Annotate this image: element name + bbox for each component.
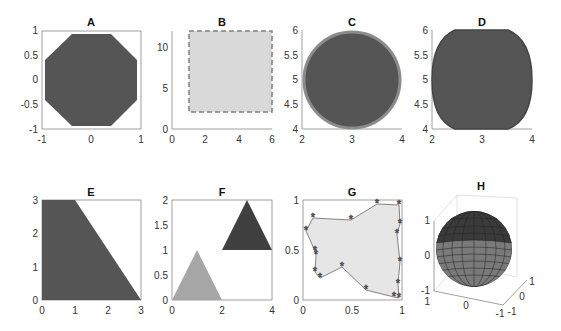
svg-text:*: * [392,291,396,302]
svg-text:1: 1 [32,262,38,273]
svg-text:0: 0 [293,295,299,306]
svg-text:1: 1 [32,25,38,36]
svg-text:*: * [313,266,317,277]
panel-g: G * * * * * * * * * * * * * * * * * 0 0.… [285,186,405,316]
svg-text:*: * [397,292,401,303]
svg-text:0: 0 [162,124,168,135]
svg-text:*: * [395,228,399,239]
circle [304,32,400,128]
svg-text:*: * [398,256,402,267]
svg-text:4: 4 [269,305,275,316]
svg-text:2: 2 [162,195,168,206]
svg-text:6: 6 [422,25,428,36]
panel-c: C 6 5.5 5 4.5 4 2 3 4 [284,16,405,145]
svg-text:3: 3 [138,305,144,316]
svg-text:5.5: 5.5 [284,50,298,61]
svg-text:1: 1 [293,195,299,206]
svg-text:0: 0 [463,300,469,311]
rounded-rectangle [432,30,532,129]
panel-f: F 0 0.5 1 1.5 2 0 2 4 [154,186,275,316]
svg-text:2: 2 [429,134,435,145]
svg-text:5: 5 [422,74,428,85]
svg-text:4: 4 [529,134,535,145]
svg-text:1: 1 [162,245,168,256]
svg-text:*: * [396,278,400,289]
svg-text:1: 1 [529,276,535,287]
svg-text:2: 2 [32,228,38,239]
panel-title: D [478,16,486,28]
svg-text:6: 6 [292,25,298,36]
svg-text:0: 0 [519,291,525,302]
svg-text:1.5: 1.5 [154,220,168,231]
figure: A 1 0.5 0 -0.5 -1 -1 0 1 B 0 5 10 0 2 4 … [0,0,561,331]
svg-text:4.5: 4.5 [284,99,298,110]
rectangle [189,31,272,112]
sphere [436,211,512,287]
svg-text:6: 6 [269,134,275,145]
svg-text:-1: -1 [421,285,430,296]
svg-text:-0.5: -0.5 [21,99,39,110]
svg-text:0.5: 0.5 [154,270,168,281]
svg-text:*: * [349,214,353,225]
svg-text:-1: -1 [38,134,47,145]
panel-b: B 0 5 10 0 2 4 6 [157,16,275,145]
panel-title: C [348,16,356,28]
svg-text:0.5: 0.5 [24,50,38,61]
svg-text:4.5: 4.5 [414,99,428,110]
svg-text:*: * [375,198,379,209]
svg-text:0: 0 [39,305,45,316]
svg-text:0: 0 [32,295,38,306]
panel-d: D 6 5.5 5 4.5 4 2 3 4 [414,16,535,145]
panel-a: A 1 0.5 0 -0.5 -1 -1 0 1 [21,16,144,145]
svg-text:1: 1 [138,134,144,145]
svg-text:0: 0 [169,134,175,145]
panel-title: A [87,16,95,28]
svg-text:-1: -1 [508,306,517,317]
svg-text:4: 4 [422,124,428,135]
svg-text:3: 3 [32,195,38,206]
panel-title: B [218,16,226,28]
svg-text:0: 0 [162,295,168,306]
octagon [45,34,137,126]
svg-text:2: 2 [219,305,225,316]
panel-title: F [219,186,226,198]
svg-text:*: * [318,272,322,283]
svg-text:-1: -1 [496,308,505,319]
svg-text:0: 0 [32,74,38,85]
svg-text:1: 1 [424,215,430,226]
svg-text:10: 10 [157,42,169,53]
panel-title: E [87,186,94,198]
svg-text:5: 5 [292,74,298,85]
panel-title: G [348,186,357,198]
svg-text:2: 2 [105,305,111,316]
svg-text:4: 4 [292,124,298,135]
panel-e: E 0 1 2 3 0 1 2 3 [32,186,144,316]
svg-text:1: 1 [72,305,78,316]
svg-text:0: 0 [88,134,94,145]
svg-text:0.5: 0.5 [285,245,299,256]
svg-text:*: * [311,212,315,223]
svg-text:*: * [313,245,317,256]
svg-text:5.5: 5.5 [414,50,428,61]
svg-text:1: 1 [424,296,430,307]
svg-text:*: * [397,199,401,210]
svg-text:5: 5 [162,83,168,94]
svg-text:4: 4 [236,134,242,145]
svg-text:0: 0 [169,305,175,316]
svg-text:2: 2 [202,134,208,145]
svg-text:*: * [340,261,344,272]
svg-text:0: 0 [300,305,306,316]
svg-text:*: * [304,225,308,236]
svg-text:0: 0 [424,250,430,261]
svg-text:3: 3 [349,134,355,145]
svg-text:*: * [364,284,368,295]
svg-text:4: 4 [399,134,405,145]
panel-h: H [421,180,535,319]
svg-text:3: 3 [479,134,485,145]
panel-title: H [477,180,485,192]
svg-text:1: 1 [399,305,405,316]
svg-text:0.5: 0.5 [345,305,359,316]
svg-text:2: 2 [299,134,305,145]
